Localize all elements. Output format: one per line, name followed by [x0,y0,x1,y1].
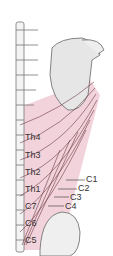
label-c4: C4 [65,202,77,211]
anatomy-diagram: Th4 Th3 Th2 Th1 C7 C6 C5 C1 C2 C3 C4 [0,0,113,256]
label-th4: Th4 [25,133,41,142]
label-c7: C7 [25,202,37,211]
label-c6: C6 [25,219,37,228]
label-th1: Th1 [25,185,41,194]
label-c5: C5 [25,236,37,245]
diagram-artwork [0,0,113,256]
label-th3: Th3 [25,151,41,160]
label-th2: Th2 [25,168,41,177]
